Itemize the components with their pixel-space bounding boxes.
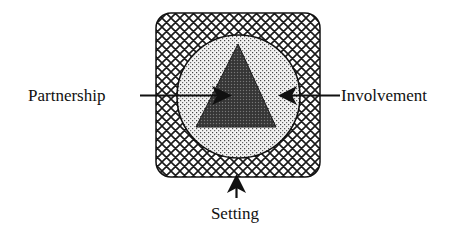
involvement-label: Involvement xyxy=(341,86,427,105)
partnership-label: Partnership xyxy=(28,86,105,105)
setting-label: Setting xyxy=(211,204,260,223)
concept-diagram: Partnership Involvement Setting xyxy=(0,0,472,235)
